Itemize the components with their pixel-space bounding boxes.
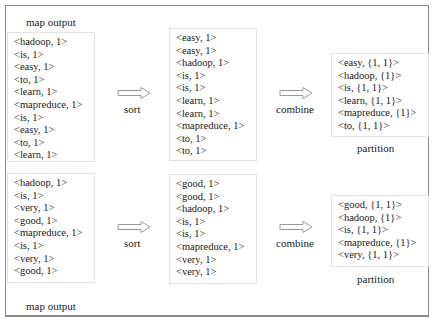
combined-item: <is, {1, 1}> <box>338 82 428 95</box>
sorted-item: <is, 1> <box>176 228 256 241</box>
sorted-box-1: <easy, 1> <easy, 1> <hadoop, 1> <is, 1> … <box>169 28 257 161</box>
sorted-item: <learn, 1> <box>176 95 256 108</box>
map-output-item: <is, 1> <box>14 112 94 125</box>
map-output-item: <easy, 1> <box>14 124 94 137</box>
map-output-item: <to, 1> <box>14 74 94 87</box>
combine-arrow-icon-2 <box>279 221 313 233</box>
sorted-item: <is, 1> <box>176 82 256 95</box>
sorted-item: <easy, 1> <box>176 32 256 45</box>
partition-label-1: partition <box>357 142 394 155</box>
map-output-item: <to, 1> <box>14 137 94 150</box>
map-output-item: <learn, 1> <box>14 86 94 99</box>
sorted-item: <learn, 1> <box>176 108 256 121</box>
map-output-box-1: <hadoop, 1> <is, 1> <easy, 1> <to, 1> <l… <box>7 32 95 162</box>
map-output-item: <very, 1> <box>14 202 94 215</box>
map-output-item: <is, 1> <box>14 240 94 253</box>
map-output-item: <very, 1> <box>14 253 94 266</box>
combined-item: <hadoop, {1}> <box>338 212 428 225</box>
map-output-item: <good, 1> <box>14 265 94 278</box>
map-output-item: <good, 1> <box>14 215 94 228</box>
sort-label-1: sort <box>124 103 141 116</box>
sort-label-2: sort <box>124 237 141 250</box>
sorted-item: <is, 1> <box>176 70 256 83</box>
map-output-item: <mapreduce, 1> <box>14 99 94 112</box>
sort-arrow-icon-1 <box>117 87 151 99</box>
map-output-item: <is, 1> <box>14 190 94 203</box>
sorted-item: <very, 1> <box>176 266 256 279</box>
combined-box-1: <easy, {1, 1}> <hadoop, {1}> <is, {1, 1}… <box>331 53 429 137</box>
combined-item: <easy, {1, 1}> <box>338 57 428 70</box>
map-output-label-2: map output <box>26 300 76 313</box>
combined-item: <good, {1, 1}> <box>338 199 428 212</box>
partition-label-2: partition <box>357 273 394 286</box>
combine-arrow-icon-1 <box>279 87 313 99</box>
sorted-item: <hadoop, 1> <box>176 203 256 216</box>
sorted-item: <good, 1> <box>176 191 256 204</box>
map-output-item: <hadoop, 1> <box>14 177 94 190</box>
map-output-item: <is, 1> <box>14 49 94 62</box>
sorted-item: <to, 1> <box>176 133 256 146</box>
combined-item: <is, {1, 1}> <box>338 224 428 237</box>
map-output-item: <learn, 1> <box>14 149 94 162</box>
sort-arrow-icon-2 <box>117 221 151 233</box>
sorted-item: <very, 1> <box>176 254 256 267</box>
sorted-item: <mapreduce, 1> <box>176 241 256 254</box>
map-output-item: <mapreduce, 1> <box>14 227 94 240</box>
sorted-item: <hadoop, 1> <box>176 57 256 70</box>
combined-item: <to, {1, 1}> <box>338 120 428 133</box>
sorted-item: <mapreduce, 1> <box>176 120 256 133</box>
combined-box-2: <good, {1, 1}> <hadoop, {1}> <is, {1, 1}… <box>331 195 429 267</box>
map-output-label-1: map output <box>26 16 76 29</box>
combined-item: <learn, {1, 1}> <box>338 95 428 108</box>
sorted-item: <is, 1> <box>176 216 256 229</box>
map-output-item: <easy, 1> <box>14 61 94 74</box>
sorted-box-2: <good, 1> <good, 1> <hadoop, 1> <is, 1> … <box>169 174 257 284</box>
map-output-box-2: <hadoop, 1> <is, 1> <very, 1> <good, 1> … <box>7 173 95 283</box>
sorted-item: <to, 1> <box>176 145 256 158</box>
combined-item: <very, {1, 1}> <box>338 249 428 262</box>
combine-label-1: combine <box>276 103 314 116</box>
sorted-item: <good, 1> <box>176 178 256 191</box>
combined-item: <hadoop, {1}> <box>338 70 428 83</box>
combined-item: <mapreduce, {1}> <box>338 107 428 120</box>
combine-label-2: combine <box>276 237 314 250</box>
sorted-item: <easy, 1> <box>176 45 256 58</box>
map-output-item: <hadoop, 1> <box>14 36 94 49</box>
combined-item: <mapreduce, {1}> <box>338 237 428 250</box>
